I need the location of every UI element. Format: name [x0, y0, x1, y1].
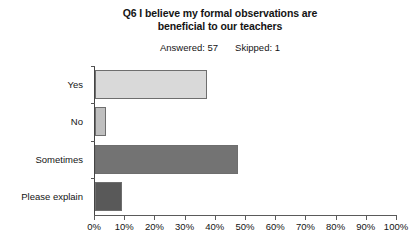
x-tick-mark [215, 215, 216, 220]
y-tick-mark [91, 103, 95, 104]
bar [95, 182, 122, 211]
x-tick-label: 30% [175, 221, 194, 232]
x-tick-mark [396, 215, 397, 220]
x-tick-label: 60% [266, 221, 285, 232]
chart-title-line-2: beneficial to our teachers [95, 20, 345, 33]
chart-title: Q6 I believe my formal observations are … [95, 7, 345, 33]
x-tick-mark [336, 215, 337, 220]
title-block: Q6 I believe my formal observations are … [95, 7, 345, 53]
chart-subtitle: Answered: 57 Skipped: 1 [95, 42, 345, 53]
x-tick-mark [305, 215, 306, 220]
answered-count: Answered: 57 [160, 42, 218, 53]
x-tick-label: 40% [205, 221, 224, 232]
bar-row [95, 66, 397, 103]
x-tick-label: 50% [235, 221, 254, 232]
category-label: Yes [0, 66, 89, 103]
category-label: Please explain [0, 178, 89, 215]
x-axis-ticks [94, 215, 397, 220]
x-tick-mark [366, 215, 367, 220]
x-tick-label: 100% [384, 221, 408, 232]
category-label: No [0, 103, 89, 140]
x-tick-label: 80% [326, 221, 345, 232]
bar-row [95, 178, 397, 215]
bar-chart: Q6 I believe my formal observations are … [0, 0, 419, 249]
x-tick-mark [154, 215, 155, 220]
y-tick-mark [91, 178, 95, 179]
x-tick-label: 70% [296, 221, 315, 232]
skipped-count: Skipped: 1 [235, 42, 280, 53]
y-tick-mark [91, 66, 95, 67]
plot-area [94, 66, 397, 215]
x-tick-mark [275, 215, 276, 220]
bar [95, 145, 238, 174]
bar-row [95, 141, 397, 178]
x-axis-tick-labels: 0%10%20%30%40%50%60%70%80%90%100% [94, 221, 397, 237]
y-tick-mark [91, 141, 95, 142]
bar [95, 107, 106, 136]
x-tick-label: 20% [145, 221, 164, 232]
bar-row [95, 103, 397, 140]
x-tick-mark [185, 215, 186, 220]
x-tick-label: 90% [356, 221, 375, 232]
bar-series [95, 66, 397, 215]
x-tick-mark [245, 215, 246, 220]
x-tick-label: 0% [87, 221, 101, 232]
x-tick-label: 10% [115, 221, 134, 232]
chart-title-line-1: Q6 I believe my formal observations are [95, 7, 345, 20]
category-label: Sometimes [0, 141, 89, 178]
category-axis-labels: YesNoSometimesPlease explain [0, 66, 89, 215]
bar [95, 70, 207, 99]
x-tick-mark [124, 215, 125, 220]
x-tick-mark [94, 215, 95, 220]
